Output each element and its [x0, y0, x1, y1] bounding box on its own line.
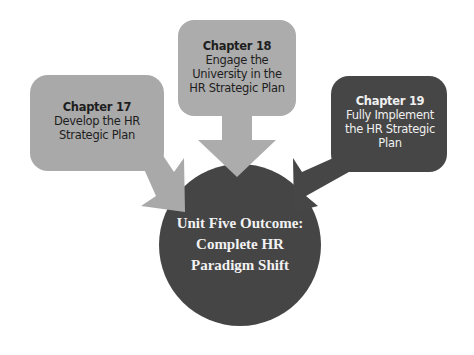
chapter-18-line-1: Engage the — [178, 53, 296, 67]
chapter-17-label: Chapter 17 Develop the HR Strategic Plan — [30, 100, 164, 142]
chapter-19-line-3: Plan — [331, 136, 449, 150]
chapter-19-title: Chapter 19 — [331, 94, 449, 108]
chapter-17-line-2: Strategic Plan — [30, 128, 164, 142]
chapter-19-line-1: Fully Implement — [331, 108, 449, 122]
outcome-line-2: Complete HR — [160, 234, 320, 255]
chapter-17-arrow — [140, 148, 185, 212]
outcome-line-1: Unit Five Outcome: — [160, 213, 320, 234]
chapter-18-line-2: University in the — [178, 67, 296, 81]
chapter-17-line-1: Develop the HR — [30, 114, 164, 128]
chapter-17-callout — [30, 75, 185, 212]
chapter-19-label: Chapter 19 Fully Implement the HR Strate… — [331, 94, 449, 150]
outcome-line-3: Paradigm Shift — [160, 255, 320, 276]
chapter-19-arrow — [293, 155, 356, 212]
chapter-18-arrow — [198, 110, 276, 177]
outcome-label: Unit Five Outcome: Complete HR Paradigm … — [160, 213, 320, 276]
chapter-17-title: Chapter 17 — [30, 100, 164, 114]
chapter-18-title: Chapter 18 — [178, 39, 296, 53]
chapter-19-line-2: the HR Strategic — [331, 122, 449, 136]
chapter-18-label: Chapter 18 Engage the University in the … — [178, 39, 296, 95]
chapter-18-line-3: HR Strategic Plan — [178, 81, 296, 95]
